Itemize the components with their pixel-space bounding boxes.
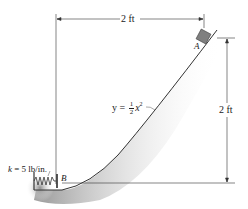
fraction-denominator: 2 [129, 109, 135, 116]
equation-lhs: y = [112, 102, 125, 113]
spring-k-value: = 5 lb/in. [12, 164, 47, 174]
surface-shadow [26, 30, 222, 204]
equation-exponent: 2 [140, 101, 143, 107]
curve-equation: y = 1 2 x2 [112, 101, 143, 116]
equation-fraction: 1 2 [129, 101, 135, 116]
right-dimension-label: 2 ft [219, 105, 233, 115]
equation-leader [146, 107, 155, 110]
spring-constant-label: k = 5 lb/in. [8, 165, 47, 174]
point-a-label: A [194, 42, 200, 51]
top-dimension-label: 2 ft [121, 14, 135, 24]
point-b-label: B [61, 174, 67, 183]
spring-leader [48, 171, 50, 176]
